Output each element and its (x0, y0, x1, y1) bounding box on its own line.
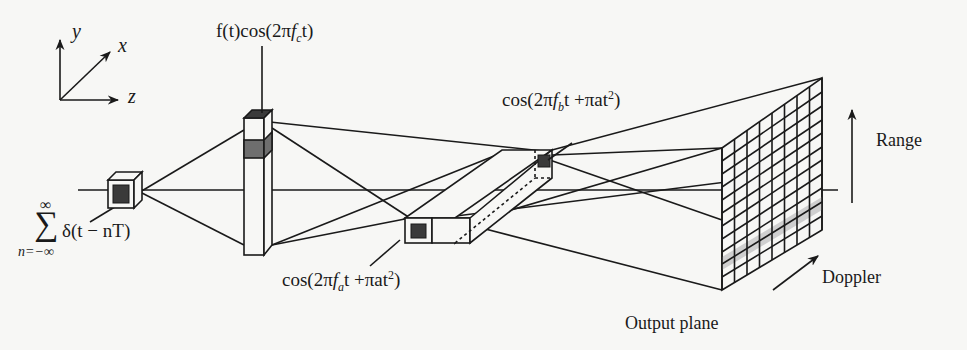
diagram-canvas: y x z ∞ ∑ n=−∞ δ(t − nT) f(t)cos(2πfct) … (0, 0, 967, 350)
source-cube (108, 172, 142, 208)
range-label: Range (876, 130, 922, 151)
doppler-arrow-icon (773, 256, 818, 290)
axis-label-z: z (128, 85, 136, 108)
coordinate-axes-icon (60, 40, 118, 100)
doppler-label: Doppler (822, 267, 881, 288)
chirp-a-label: cos(2πfat +πat2) (282, 268, 400, 295)
pulse-train-expression: δ(t − nT) (62, 220, 130, 242)
output-plane-grid (722, 78, 822, 290)
chirp-b-label: cos(2πfbt +πat2) (502, 88, 620, 115)
axis-label-y: y (72, 20, 81, 43)
sum-lower-limit: n=−∞ (18, 244, 54, 260)
modulator-signal-label: f(t)cos(2πfct) (216, 20, 313, 46)
axis-label-x: x (118, 34, 127, 57)
sum-symbol: ∑ (34, 207, 58, 241)
output-plane-label: Output plane (625, 313, 718, 334)
optical-system-drawing (0, 0, 967, 350)
signal-modulator-column (244, 46, 272, 255)
